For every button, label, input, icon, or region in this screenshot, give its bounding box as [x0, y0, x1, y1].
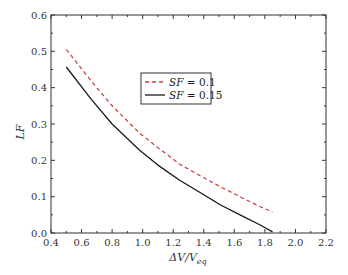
- y-tick-label: 0.5: [31, 46, 47, 57]
- x-tick-label: 0.8: [104, 237, 120, 248]
- x-tick-label: 1.0: [135, 237, 151, 248]
- legend-label-2: SF = 0.15: [169, 89, 222, 101]
- line-chart: 0.40.60.81.01.21.41.61.82.02.20.00.10.20…: [0, 0, 348, 275]
- x-axis-label: ΔV/Veq: [168, 251, 206, 266]
- x-tick-label: 1.8: [257, 237, 273, 248]
- x-tick-label: 2.0: [287, 237, 303, 248]
- y-tick-label: 0.3: [31, 119, 47, 130]
- y-tick-label: 0.4: [31, 82, 47, 93]
- legend: SF = 0.1SF = 0.15: [141, 73, 222, 104]
- axes: 0.40.60.81.01.21.41.61.82.02.20.00.10.20…: [31, 10, 334, 249]
- y-tick-label: 0.0: [31, 228, 47, 239]
- x-tick-label: 1.6: [226, 237, 242, 248]
- y-tick-label: 0.1: [31, 191, 47, 202]
- legend-label-1: SF = 0.1: [169, 76, 216, 88]
- x-tick-label: 1.2: [165, 237, 181, 248]
- x-tick-label: 2.2: [318, 237, 334, 248]
- y-axis-label: LF: [14, 124, 27, 140]
- x-tick-label: 0.6: [74, 237, 90, 248]
- y-tick-label: 0.6: [31, 10, 47, 21]
- x-tick-label: 1.4: [196, 237, 212, 248]
- x-tick-label: 0.4: [43, 237, 59, 248]
- y-tick-label: 0.2: [31, 155, 47, 166]
- plot-frame: [51, 15, 326, 233]
